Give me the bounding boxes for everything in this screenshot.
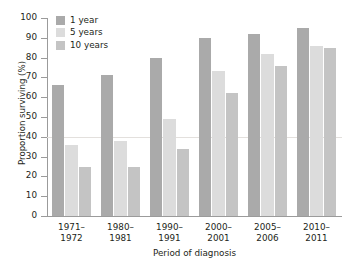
legend-item: 5 years (56, 27, 108, 40)
bar (65, 145, 78, 216)
y-axis-tick-label: 30 (0, 152, 37, 161)
bar (199, 38, 212, 216)
y-axis-tick-label: 40 (0, 132, 37, 141)
bar (114, 141, 127, 216)
bar (248, 34, 261, 216)
bar (310, 46, 323, 216)
x-axis-tick-label: 2010–2011 (287, 222, 347, 243)
y-axis-tick-label: 60 (0, 92, 37, 101)
bar (324, 48, 337, 216)
legend-swatch-icon (56, 41, 65, 50)
y-axis-tick-label: 80 (0, 53, 37, 62)
legend-item: 10 years (56, 39, 108, 52)
legend-item-label: 10 years (70, 41, 108, 50)
bar (226, 93, 239, 216)
x-axis-tick-label-line: 2010– (287, 222, 347, 233)
legend-swatch-icon (56, 16, 65, 25)
bar (101, 75, 114, 216)
bar (212, 71, 225, 216)
x-axis-line (47, 216, 342, 217)
y-axis-tick-label: 70 (0, 72, 37, 81)
legend-item-label: 1 year (70, 16, 98, 25)
y-axis-tick-label: 0 (0, 211, 37, 220)
bar (297, 28, 310, 216)
legend-item-label: 5 years (70, 28, 103, 37)
chart-legend: 1 year5 years10 years (56, 14, 108, 52)
x-axis-title: Period of diagnosis (47, 248, 342, 258)
bar (79, 167, 92, 217)
y-axis-tick (41, 216, 47, 217)
bar (128, 167, 141, 217)
y-axis-tick-label: 10 (0, 191, 37, 200)
x-axis-tick-label-line: 2011 (287, 233, 347, 244)
y-axis-tick-label: 100 (0, 13, 37, 22)
bar (163, 119, 176, 216)
bar (150, 58, 163, 216)
bar (275, 66, 288, 216)
bar (52, 85, 65, 216)
bar (261, 54, 274, 216)
y-axis-tick-label: 90 (0, 33, 37, 42)
bar (177, 149, 190, 216)
legend-item: 1 year (56, 14, 108, 27)
y-axis-tick-label: 50 (0, 112, 37, 121)
y-axis-tick-label: 20 (0, 171, 37, 180)
legend-swatch-icon (56, 28, 65, 37)
survival-bar-chart: Proportion surviving (%) 100908070605040… (0, 0, 348, 272)
